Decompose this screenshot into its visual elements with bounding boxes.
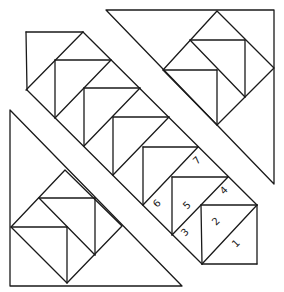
piece-label-1: 1	[230, 237, 242, 249]
lower-left-corner-triangle	[10, 110, 182, 286]
band-unit	[55, 60, 111, 118]
piece-label-7: 7	[191, 154, 203, 166]
piece-label-2: 2	[210, 215, 222, 227]
band-unit	[113, 117, 169, 175]
piece-label-6: 6	[151, 197, 163, 209]
piece-label-5: 5	[181, 199, 193, 211]
quilt-diagram: 1 2 3 4 5 6 7	[0, 0, 284, 292]
piece-label-3: 3	[179, 226, 191, 238]
corner-triangle-outline	[10, 110, 182, 286]
band-left-edge	[26, 32, 27, 90]
band-upper-edge	[83, 32, 257, 205]
band-unit	[143, 147, 198, 205]
center-diagonal-band	[26, 32, 257, 264]
corner-diamond	[163, 11, 274, 125]
band-unit-final	[201, 205, 257, 264]
piece-label-4: 4	[218, 184, 230, 196]
